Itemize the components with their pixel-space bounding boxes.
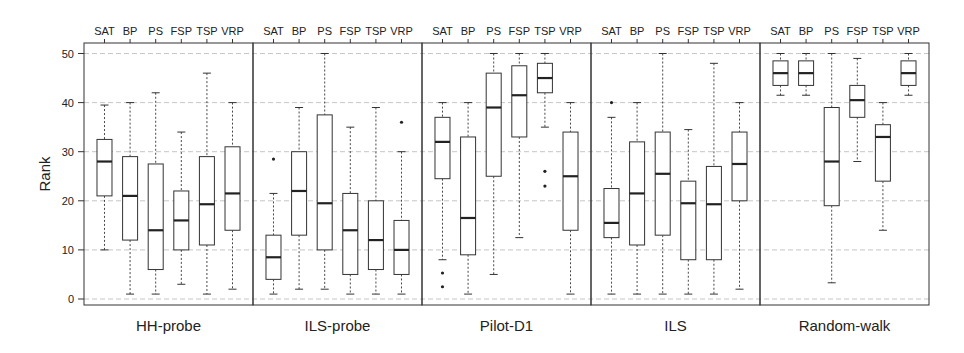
category-label: TSP bbox=[703, 25, 724, 37]
box-bp: BP bbox=[461, 25, 476, 294]
y-tick-label: 10 bbox=[62, 244, 74, 256]
box-fsp: FSP bbox=[509, 25, 530, 238]
iqr-box bbox=[563, 132, 578, 230]
panel-random-walk: Random-walkSATBPPSFSPTSPVRP bbox=[760, 25, 929, 334]
iqr-box bbox=[461, 137, 476, 255]
category-label: PS bbox=[655, 25, 670, 37]
y-tick-label: 20 bbox=[62, 195, 74, 207]
y-tick-label: 30 bbox=[62, 146, 74, 158]
category-label: PS bbox=[148, 25, 163, 37]
category-label: BP bbox=[123, 25, 138, 37]
box-tsp: TSP bbox=[703, 25, 724, 294]
category-label: VRP bbox=[728, 25, 751, 37]
outlier-point bbox=[400, 121, 403, 124]
category-label: BP bbox=[292, 25, 307, 37]
box-tsp: TSP bbox=[365, 25, 386, 294]
category-label: BP bbox=[799, 25, 814, 37]
box-ps: PS bbox=[148, 25, 163, 294]
panel-pilot-d1: Pilot-D1SATBPPSFSPTSPVRP bbox=[422, 25, 591, 334]
box-ps: PS bbox=[655, 25, 670, 294]
panel-label: Random-walk bbox=[799, 317, 891, 334]
box-vrp: VRP bbox=[728, 25, 751, 289]
outlier-point bbox=[441, 285, 444, 288]
category-label: FSP bbox=[847, 25, 868, 37]
category-label: SAT bbox=[94, 25, 115, 37]
box-sat: SAT bbox=[770, 25, 791, 95]
y-tick-label: 50 bbox=[62, 48, 74, 60]
y-axis: 01020304050 bbox=[62, 48, 84, 306]
panel-ils: ILSSATBPPSFSPTSPVRP bbox=[591, 25, 760, 334]
outlier-point bbox=[543, 170, 546, 173]
category-label: SAT bbox=[263, 25, 284, 37]
category-label: SAT bbox=[432, 25, 453, 37]
iqr-box bbox=[875, 125, 890, 181]
box-sat: SAT bbox=[263, 25, 284, 294]
category-label: TSP bbox=[196, 25, 217, 37]
panel-label: Pilot-D1 bbox=[480, 317, 533, 334]
iqr-box bbox=[604, 189, 619, 238]
box-sat: SAT bbox=[601, 25, 622, 294]
box-ps: PS bbox=[824, 25, 839, 283]
boxplot-chart: 01020304050 Rank HH-probeSATBPPSFSPTSPVR… bbox=[0, 0, 964, 353]
outlier-point bbox=[610, 101, 613, 104]
y-tick-label: 0 bbox=[68, 293, 74, 305]
box-fsp: FSP bbox=[340, 25, 361, 294]
box-sat: SAT bbox=[432, 25, 453, 288]
box-vrp: VRP bbox=[897, 25, 920, 95]
box-sat: SAT bbox=[94, 25, 115, 250]
iqr-box bbox=[732, 132, 747, 201]
category-label: PS bbox=[317, 25, 332, 37]
iqr-box bbox=[317, 115, 332, 250]
iqr-box bbox=[706, 166, 721, 259]
category-label: VRP bbox=[897, 25, 920, 37]
box-bp: BP bbox=[630, 25, 645, 294]
iqr-box bbox=[824, 108, 839, 206]
iqr-box bbox=[199, 157, 214, 245]
panel-label: ILS-probe bbox=[305, 317, 371, 334]
category-label: TSP bbox=[365, 25, 386, 37]
iqr-box bbox=[486, 73, 501, 176]
category-label: VRP bbox=[390, 25, 413, 37]
box-bp: BP bbox=[123, 25, 138, 294]
iqr-box bbox=[97, 139, 112, 195]
panel-hh-probe: HH-probeSATBPPSFSPTSPVRP bbox=[84, 25, 253, 334]
category-label: TSP bbox=[534, 25, 555, 37]
outlier-point bbox=[543, 184, 546, 187]
category-label: VRP bbox=[221, 25, 244, 37]
box-fsp: FSP bbox=[678, 25, 699, 294]
box-fsp: FSP bbox=[171, 25, 192, 284]
outlier-point bbox=[272, 157, 275, 160]
iqr-box bbox=[343, 193, 358, 274]
iqr-box bbox=[850, 85, 865, 117]
category-label: FSP bbox=[171, 25, 192, 37]
category-label: BP bbox=[461, 25, 476, 37]
box-fsp: FSP bbox=[847, 25, 868, 162]
panel-label: ILS bbox=[664, 317, 687, 334]
category-label: PS bbox=[824, 25, 839, 37]
box-vrp: VRP bbox=[559, 25, 582, 294]
outlier-point bbox=[441, 271, 444, 274]
y-tick-label: 40 bbox=[62, 97, 74, 109]
iqr-box bbox=[148, 164, 163, 270]
category-label: PS bbox=[486, 25, 501, 37]
category-label: VRP bbox=[559, 25, 582, 37]
category-label: BP bbox=[630, 25, 645, 37]
iqr-box bbox=[435, 117, 450, 178]
box-ps: PS bbox=[317, 25, 332, 289]
iqr-box bbox=[681, 181, 696, 260]
category-label: FSP bbox=[340, 25, 361, 37]
box-vrp: VRP bbox=[390, 25, 413, 294]
iqr-box bbox=[368, 201, 383, 270]
box-bp: BP bbox=[799, 25, 814, 95]
iqr-box bbox=[394, 220, 409, 274]
iqr-box bbox=[512, 66, 527, 137]
category-label: TSP bbox=[872, 25, 893, 37]
panel-label: HH-probe bbox=[136, 317, 201, 334]
category-label: SAT bbox=[601, 25, 622, 37]
iqr-box bbox=[225, 147, 240, 230]
category-label: FSP bbox=[678, 25, 699, 37]
box-tsp: TSP bbox=[534, 25, 555, 188]
iqr-box bbox=[123, 157, 138, 240]
panel-ils-probe: ILS-probeSATBPPSFSPTSPVRP bbox=[253, 25, 422, 334]
box-tsp: TSP bbox=[872, 25, 893, 230]
